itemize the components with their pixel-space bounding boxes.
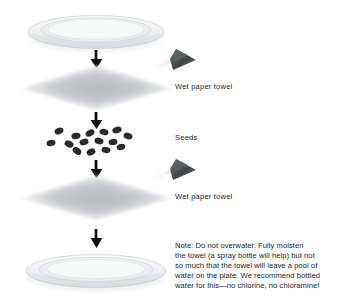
- note-line-4: water on the plate. We recommend bottled: [175, 271, 335, 281]
- arrow-down-2: [91, 112, 103, 129]
- plate-bottom: [26, 255, 166, 293]
- seed-cluster: [46, 126, 133, 157]
- label-seeds: Seeds: [175, 133, 197, 142]
- label-wet-paper-towel-bottom: Wet paper towel: [175, 192, 232, 201]
- note-line-1: Note: Do not overwater. Fully moisten: [175, 241, 335, 251]
- paper-towel-bottom: [21, 176, 171, 220]
- arrow-down-3: [91, 160, 103, 179]
- plate-top: [28, 16, 164, 54]
- paper-towel-top: [21, 66, 171, 110]
- label-wet-paper-towel-top: Wet paper towel: [175, 82, 232, 91]
- note-line-3: so much that the towel will leave a pool…: [175, 261, 335, 271]
- note-block: Note: Do not overwater. Fully moisten th…: [175, 241, 335, 291]
- arrow-down-4: [91, 229, 103, 248]
- diagram-canvas: Wet paper towel Seeds Wet paper towel No…: [0, 0, 340, 308]
- note-line-5: water for this—no chlorine, no chloramin…: [175, 281, 335, 291]
- note-line-2: the towel (a spray bottle will help) but…: [175, 251, 335, 261]
